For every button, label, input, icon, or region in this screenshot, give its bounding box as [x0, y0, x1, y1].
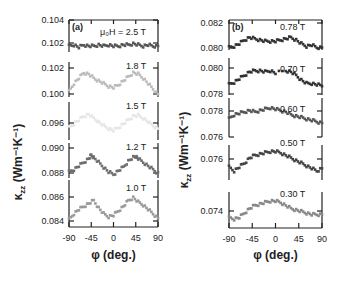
x-tick-label: 0	[273, 234, 278, 244]
data-point	[135, 115, 138, 118]
data-point	[97, 160, 100, 163]
data-point	[317, 48, 320, 51]
data-point	[130, 199, 133, 202]
data-point	[134, 198, 137, 201]
data-point	[101, 165, 104, 168]
data-point	[119, 126, 122, 129]
y-axis-title: κzz (Wm⁻¹K⁻¹)	[177, 112, 193, 189]
data-point	[233, 46, 236, 49]
data-point	[94, 202, 97, 205]
field-label: μ₀H = 2.5 T	[100, 27, 147, 37]
subplot-1p8T: 0.1020.1001.8 T	[41, 61, 159, 99]
data-point	[155, 215, 158, 218]
data-point	[88, 157, 91, 160]
chart-panel-b: 0.0820.0800.78 T0.0800.0780.70 T0.0780.0…	[177, 18, 327, 262]
data-point	[107, 217, 110, 220]
subplot-0p78T: 0.0820.0800.78 T	[200, 18, 323, 53]
data-point	[92, 199, 95, 202]
x-tick-label: 90	[317, 234, 327, 244]
y-tick-label: 0.078	[200, 89, 223, 99]
data-point	[286, 38, 289, 41]
data-point	[150, 85, 153, 88]
data-point	[250, 71, 253, 74]
subplot-0p60T: 0.0780.0760.60 T	[200, 98, 323, 142]
data-point	[269, 152, 272, 155]
y-tick-label: 0.088	[41, 168, 64, 178]
data-point	[269, 41, 272, 44]
subplot-0p50T: 0.0760.50 T	[200, 138, 323, 180]
data-point	[305, 46, 308, 49]
data-point	[73, 124, 76, 127]
data-point	[119, 84, 122, 87]
data-point	[119, 46, 122, 49]
data-point	[112, 87, 115, 90]
data-point	[157, 93, 160, 96]
data-point	[125, 163, 128, 166]
data-point	[297, 76, 300, 79]
data-point	[257, 111, 260, 114]
y-tick-label: 0.080	[200, 43, 223, 53]
data-point	[262, 109, 265, 112]
data-point	[245, 161, 248, 164]
data-point	[152, 213, 155, 216]
x-tick-label: -90	[222, 234, 235, 244]
data-point	[124, 122, 127, 125]
data-point	[262, 203, 265, 206]
data-point	[96, 45, 99, 48]
data-point	[84, 206, 87, 209]
x-tick-label: -45	[246, 234, 259, 244]
data-point	[84, 161, 87, 164]
y-tick-label: 0.096	[41, 118, 64, 128]
data-point	[233, 171, 236, 174]
field-label: 0.30 T	[280, 189, 306, 199]
data-point	[112, 46, 115, 49]
data-point	[91, 74, 94, 77]
y-tick-label: 0.104	[41, 15, 64, 25]
field-label: 0.70 T	[280, 64, 306, 74]
data-point	[130, 118, 133, 121]
x-tick-label: 0	[111, 233, 116, 243]
subplot-0p70T: 0.0800.0780.70 T	[200, 58, 323, 99]
y-tick-label: 0.080	[200, 63, 223, 73]
data-point	[99, 162, 102, 165]
y-tick-label: 0.100	[41, 89, 64, 99]
y-tick-label: 0.102	[41, 63, 64, 73]
x-tick-label: -90	[62, 233, 75, 243]
data-point	[257, 71, 260, 74]
data-point	[152, 88, 155, 91]
y-tick-label: 0.076	[200, 154, 223, 164]
subplot-2p5T: 0.1040.102μ₀H = 2.5 T	[41, 15, 159, 52]
data-point	[233, 219, 236, 222]
field-label: 1.2 T	[126, 142, 147, 152]
data-point	[130, 74, 133, 77]
data-point	[99, 209, 102, 212]
data-point	[250, 157, 253, 160]
y-tick-label: 0.082	[200, 18, 223, 28]
data-point	[124, 79, 127, 82]
data-point	[73, 84, 76, 87]
data-point	[155, 90, 158, 93]
subplot-1p5T: 0.0961.5 T	[41, 101, 159, 140]
data-point	[317, 170, 320, 173]
data-point	[321, 213, 324, 216]
data-point	[119, 169, 122, 172]
data-point	[157, 171, 160, 174]
data-point	[78, 166, 81, 169]
subplot-0p30T: -90-45045900.0740.30 T	[200, 189, 327, 244]
x-axis-title: φ (deg.)	[253, 248, 298, 262]
data-point	[281, 40, 284, 43]
data-point	[145, 207, 148, 210]
x-tick-label: 45	[294, 234, 304, 244]
field-label: 0.60 T	[280, 104, 306, 114]
data-point	[94, 158, 97, 161]
data-point	[114, 173, 117, 176]
data-point	[238, 113, 241, 116]
data-point	[317, 215, 320, 218]
data-point	[321, 167, 324, 170]
y-tick-label: 0.102	[41, 38, 64, 48]
data-point	[238, 43, 241, 46]
x-axis-title: φ (deg.)	[91, 248, 136, 262]
panel-letter: (a)	[72, 22, 83, 32]
subplot-1p0T: -90-45045900.0860.0841.0 T	[41, 180, 163, 243]
data-point	[112, 215, 115, 218]
